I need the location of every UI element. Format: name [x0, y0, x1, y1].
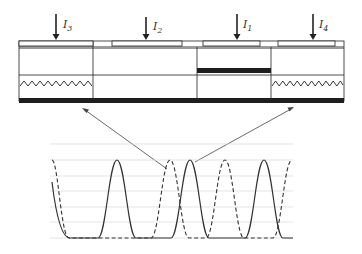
- gray-top-layer: [19, 46, 344, 49]
- arrow-down-icon: [53, 34, 60, 40]
- pointer-arrow-to-section-4: [195, 109, 291, 162]
- arrow-down-icon: [310, 34, 317, 40]
- contact-pad-section-1: [19, 41, 93, 46]
- chart-gridlines: [50, 144, 293, 238]
- solid-comb-curve: [52, 160, 293, 238]
- grating-zigzag-section-1: [20, 81, 92, 86]
- contact-pad-section-3: [203, 41, 260, 46]
- current-arrow-section-4: [310, 14, 317, 40]
- current-label-i1: I1: [242, 18, 252, 33]
- active-layer-section-3: [197, 68, 271, 73]
- dashed-comb-curve: [52, 160, 292, 238]
- current-label-i4: I4: [318, 18, 328, 33]
- comb-spectra-chart: [50, 144, 293, 238]
- current-arrow-section-2: [143, 17, 150, 40]
- contact-pad-section-2: [112, 41, 182, 46]
- substrate-bar: [19, 98, 344, 103]
- current-label-i3: I3: [62, 18, 72, 33]
- grating-zigzag-section-4: [272, 81, 343, 86]
- arrow-down-icon: [143, 34, 150, 40]
- arrow-down-icon: [234, 34, 241, 40]
- device-cross-section: I3 I2 I1 I4: [19, 14, 344, 103]
- current-label-i2: I2: [152, 20, 162, 35]
- current-arrow-section-3: [234, 14, 241, 40]
- device-outline: [19, 41, 344, 101]
- current-arrow-section-1: [53, 14, 60, 40]
- contact-pad-section-4: [278, 41, 335, 46]
- vernier-tuning-diagram: I3 I2 I1 I4: [0, 0, 362, 254]
